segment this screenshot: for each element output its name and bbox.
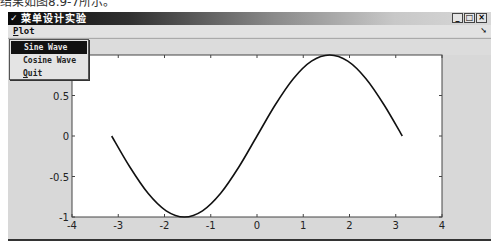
plot-dropdown-menu: Sine Wave Cosine Wave Quit [9,39,89,80]
x-tick-label: 3 [393,220,399,231]
x-tick-label: 1 [300,220,306,231]
x-tick-label: -1 [206,220,216,231]
x-tick-label: -3 [113,220,123,231]
x-tick-label: 0 [254,220,260,231]
menu-item-sine-wave[interactable]: Sine Wave [11,41,87,54]
y-tick-label: -1 [59,212,69,223]
menu-item-quit[interactable]: Quit [10,67,88,80]
menu-item-cosine-wave[interactable]: Cosine Wave [10,54,88,67]
x-tick-label: -2 [160,220,170,231]
y-tick-label: -0.5 [49,172,69,183]
x-tick-label: 4 [439,220,445,231]
quit-label: uit [28,69,42,78]
y-tick-label: 0.5 [53,91,69,102]
x-tick-label: 2 [346,220,352,231]
y-tick-label: 0 [63,131,69,142]
plot-area: -4-3-2-101234 -1-0.500.5 [0,0,493,249]
